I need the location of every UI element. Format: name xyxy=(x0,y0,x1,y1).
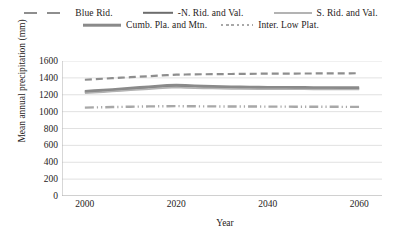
legend-row-1: Blue Rid. -N. Rid. and Val. S. Rid. and … xyxy=(24,8,377,18)
legend-item-inter-low-plat[interactable]: Inter. Low Plat. xyxy=(221,20,319,30)
solid-line-swatch-icon xyxy=(83,20,121,30)
y-axis-tick-label: 0 xyxy=(22,191,58,201)
x-axis-tick-label: 2060 xyxy=(350,199,369,209)
chart-figure: Blue Rid. -N. Rid. and Val. S. Rid. and … xyxy=(0,0,402,238)
x-axis-tick-label: 2020 xyxy=(167,199,186,209)
legend-item-blue-rid[interactable]: Blue Rid. xyxy=(24,8,112,18)
y-axis-tick-label: 1200 xyxy=(22,90,58,100)
legend-item-n-rid-and-val[interactable]: -N. Rid. and Val. xyxy=(143,8,244,18)
legend-label-n-rid-and-val: -N. Rid. and Val. xyxy=(178,8,244,18)
y-axis-tick-label: 1400 xyxy=(22,73,58,83)
legend-row-2: Cumb. Pla. and Mtn. Inter. Low Plat. xyxy=(83,20,319,30)
y-axis-tick-labels: 16001400120010008006004002000 xyxy=(18,61,58,196)
y-axis-tick-label: 1600 xyxy=(22,56,58,66)
y-axis-tick-label: 1000 xyxy=(22,107,58,117)
series-line-blue-rid xyxy=(85,73,359,80)
y-axis-tick-label: 200 xyxy=(22,174,58,184)
x-axis-title: Year xyxy=(60,218,390,228)
legend-label-cumb-pla-and-mtn: Cumb. Pla. and Mtn. xyxy=(126,20,207,30)
y-axis-tick-label: 800 xyxy=(22,124,58,134)
dashed-line-swatch-icon xyxy=(24,8,70,18)
y-axis-tick-label: 400 xyxy=(22,157,58,167)
legend-item-cumb-pla-and-mtn[interactable]: Cumb. Pla. and Mtn. xyxy=(83,20,207,30)
solid-line-swatch-icon xyxy=(274,8,312,18)
legend-item-s-rid-and-val[interactable]: S. Rid. and Val. xyxy=(274,8,378,18)
chart-svg xyxy=(62,61,382,196)
series-line-inter-low-plat xyxy=(85,106,359,107)
legend-label-inter-low-plat: Inter. Low Plat. xyxy=(258,20,319,30)
y-axis-tick-label: 600 xyxy=(22,140,58,150)
x-axis-tick-label: 2000 xyxy=(75,199,94,209)
solid-line-swatch-icon xyxy=(143,8,173,18)
legend-label-s-rid-and-val: S. Rid. and Val. xyxy=(317,8,378,18)
chart-legend: Blue Rid. -N. Rid. and Val. S. Rid. and … xyxy=(0,8,402,30)
x-axis-tick-label: 2040 xyxy=(258,199,277,209)
dotted-line-swatch-icon xyxy=(221,20,253,30)
legend-label-blue-rid: Blue Rid. xyxy=(75,8,112,18)
plot-area xyxy=(62,61,382,196)
